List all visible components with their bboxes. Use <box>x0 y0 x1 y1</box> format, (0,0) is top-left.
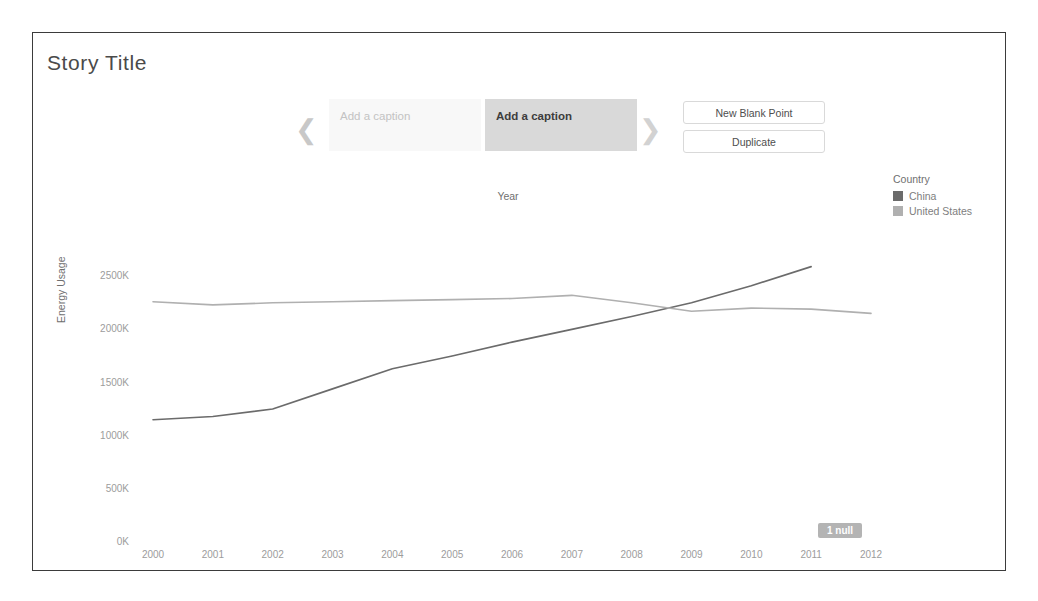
legend-item[interactable]: China <box>893 190 1003 202</box>
legend-item-label: China <box>909 190 936 202</box>
plot-lines <box>33 33 1007 572</box>
series-line-united-states <box>153 295 871 313</box>
legend-title: Country <box>893 173 1003 185</box>
series-line-china <box>153 267 811 420</box>
line-chart: Year Energy Usage 0K500K1000K1500K2000K2… <box>33 33 1007 572</box>
legend: Country ChinaUnited States <box>893 173 1003 220</box>
story-panel: Story Title ❮ ❯ Add a caption Add a capt… <box>32 32 1006 571</box>
legend-swatch-icon <box>893 191 903 201</box>
legend-swatch-icon <box>893 206 903 216</box>
legend-item-label: United States <box>909 205 972 217</box>
legend-item[interactable]: United States <box>893 205 1003 217</box>
null-indicator-badge[interactable]: 1 null <box>818 523 862 538</box>
screenshot-root: Story Title ❮ ❯ Add a caption Add a capt… <box>0 0 1038 601</box>
